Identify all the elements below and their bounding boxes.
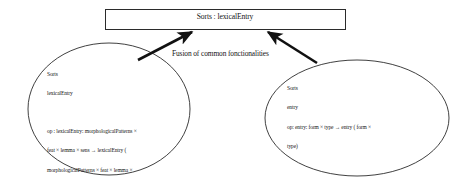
right-op-line-2: type) bbox=[287, 143, 421, 149]
specification-fusion-diagram: Sorts : lexicalEntry Fusion of common fo… bbox=[0, 0, 457, 179]
right-sort-name: entry bbox=[287, 104, 421, 110]
left-op-line-3: morphologicalPatterns × feat × lemma × bbox=[47, 167, 169, 173]
right-ellipse-content: Sorts entry op: entry: form × type → ent… bbox=[287, 72, 421, 179]
left-sort-name: lexicalEntry bbox=[47, 90, 169, 96]
top-box-title: Sorts : lexicalEntry bbox=[105, 13, 345, 22]
left-ellipse-content: Sorts lexicalEntry op : lexicalEntry: mo… bbox=[47, 58, 169, 179]
right-sorts-keyword: Sorts bbox=[287, 85, 421, 91]
left-sorts-keyword: Sorts bbox=[47, 71, 169, 77]
left-op-line-2: feat × lemma × sens → lexicalEntry ( bbox=[47, 147, 169, 153]
left-op-line-1: op : lexicalEntry: morphologicalPatterns… bbox=[47, 128, 169, 134]
left-spacer-1 bbox=[47, 110, 169, 115]
arrow-right-to-box bbox=[268, 32, 317, 63]
right-spacer-1 bbox=[287, 163, 421, 168]
fusion-label: Fusion of common fonctionalities bbox=[172, 50, 269, 59]
right-op-line-1: op: entry: form × type → entry ( form × bbox=[287, 124, 421, 130]
